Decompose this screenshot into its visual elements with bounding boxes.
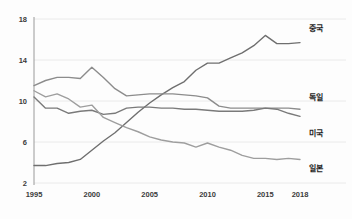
y-tick-label: 6 xyxy=(23,138,27,147)
series-label-중국: 중국 xyxy=(309,24,324,33)
x-tick-label: 2000 xyxy=(83,190,100,199)
y-tick-label: 2 xyxy=(23,179,27,188)
x-tick-label: 2005 xyxy=(141,190,158,199)
series-label-독일: 독일 xyxy=(309,92,323,102)
series-label-일본: 일본 xyxy=(309,163,324,173)
data-line-중국 xyxy=(34,35,300,165)
x-tick-label: 2015 xyxy=(257,190,274,199)
y-tick-label: 10 xyxy=(19,97,27,106)
y-axis-ticks: 26101418 xyxy=(19,15,28,188)
y-tick-label: 18 xyxy=(19,15,27,24)
line-chart: 26101418 199520002005201020152018 중국독일미국… xyxy=(0,0,352,219)
caption-strip xyxy=(0,209,352,219)
x-axis-ticks: 199520002005201020152018 xyxy=(26,190,309,199)
y-tick-label: 14 xyxy=(19,56,28,65)
chart-container: 26101418 199520002005201020152018 중국독일미국… xyxy=(0,0,352,219)
series-labels-group: 중국독일미국일본 xyxy=(309,24,324,173)
data-lines-group xyxy=(34,35,300,165)
x-tick-label: 2018 xyxy=(292,190,309,199)
series-label-미국: 미국 xyxy=(309,128,324,138)
data-line-미국 xyxy=(34,97,300,116)
x-tick-label: 1995 xyxy=(26,190,43,199)
x-tick-label: 2010 xyxy=(199,190,216,199)
